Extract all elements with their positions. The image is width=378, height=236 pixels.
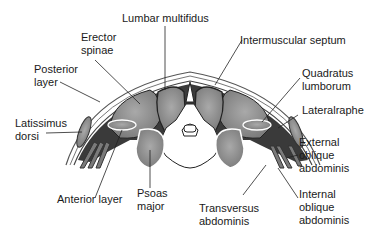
label-external-oblique: External oblique abdominis [299, 136, 349, 175]
label-posterior-layer: Posterior layer [34, 63, 78, 89]
vertebral-foramen [184, 125, 196, 132]
label-transversus-abdominis: Transversus abdominis [199, 202, 259, 228]
label-internal-oblique: Internal oblique abdominis [299, 188, 349, 227]
label-intermuscular-septum: Intermuscular septum [240, 34, 346, 47]
label-quadratus-lumborum: Quadratus lumborum [302, 67, 353, 93]
label-erector-spinae: Erector spinae [81, 31, 116, 57]
quadratus-left [108, 120, 136, 130]
label-anterior-layer: Anterior layer [57, 193, 122, 206]
label-psoas-major: Psoas major [137, 187, 168, 213]
label-lateral-raphe: Lateralraphe [302, 104, 364, 117]
label-lumbar-multifidus: Lumbar multifidus [122, 12, 209, 25]
psoas-right [216, 129, 244, 168]
quadratus-right [243, 120, 271, 130]
label-latissimus-dorsi: Latissimus dorsi [15, 117, 67, 143]
